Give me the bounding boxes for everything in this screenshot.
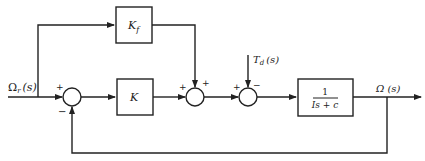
disturbance-summing-junction <box>239 88 257 106</box>
error-minus-sign: − <box>58 106 66 117</box>
feedforward-output-line <box>152 25 195 87</box>
plant-denominator: Is + c <box>311 100 338 110</box>
error-plus-sign: + <box>56 82 64 92</box>
combine-top-plus-sign: + <box>202 78 210 88</box>
disturbance-label: Td(s) <box>253 54 279 67</box>
error-summing-junction <box>63 88 81 106</box>
combine-summing-junction <box>186 88 204 106</box>
plant-numerator: 1 <box>322 87 328 97</box>
input-label: Ωr(s) <box>8 81 37 95</box>
block-diagram: Ωr(s) + − Kf K + + Td(s) + − 1 Is + c Ω … <box>0 0 425 161</box>
disturbance-left-plus-sign: + <box>233 82 241 92</box>
controller-label: K <box>129 91 139 104</box>
disturbance-top-minus-sign: − <box>253 80 261 90</box>
combine-left-plus-sign: + <box>179 82 187 92</box>
feedforward-label: Kf <box>127 19 141 34</box>
output-label: Ω (s) <box>375 83 401 94</box>
feedback-line <box>72 97 387 153</box>
feedforward-branch-line <box>38 25 114 97</box>
